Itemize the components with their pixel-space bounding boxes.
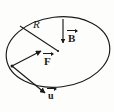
radius-label: R (33, 19, 40, 30)
velocity-vector (12, 66, 45, 93)
vector-arrow-accent-icon (67, 30, 77, 31)
diagram-canvas (0, 0, 114, 112)
rim-point (11, 65, 14, 68)
velocity-symbol: u (48, 90, 54, 101)
velocity-label: u (48, 91, 54, 101)
magnetic-field-symbol: B (68, 32, 75, 44)
force-vector (12, 51, 41, 66)
magnetic-field-label: B (68, 33, 75, 44)
vector-accent-wrap: u (48, 91, 54, 101)
disk-center-point (57, 50, 59, 52)
physics-diagram-figure: R B F u (0, 0, 114, 112)
vector-arrow-accent-icon (47, 88, 56, 89)
vector-accent-wrap: B (68, 33, 75, 44)
vector-accent-wrap: F (44, 56, 51, 67)
force-label: F (44, 56, 51, 67)
force-symbol: F (44, 55, 51, 67)
vector-arrow-accent-icon (43, 53, 53, 54)
